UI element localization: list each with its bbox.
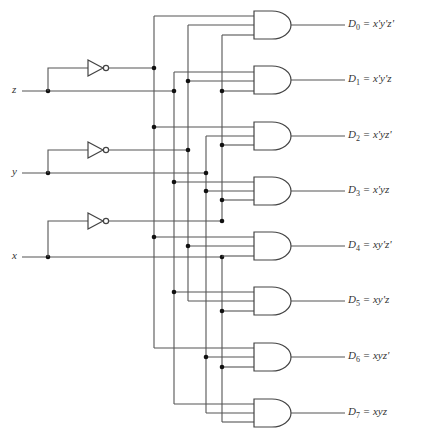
and-gate-4-icon [254,232,291,260]
output-label-d0: D0 = x'y'z' [348,18,394,32]
junction-dot [186,79,191,84]
junction-dot [172,290,177,295]
output-label-d7: D7 = xyz [348,406,387,420]
input-label-y: y [12,166,17,177]
and-gate-6-icon [254,343,291,371]
junction-dot [220,143,225,148]
junction-dot [186,148,191,153]
junction-dot [220,219,225,224]
and-gate-7-icon [254,399,291,427]
junction-dot [172,180,177,185]
inverter-y-icon [88,142,103,158]
junction-dot [220,89,225,94]
junction-dot [220,198,225,203]
junction-dot [204,171,209,176]
and-gate-3-icon [254,177,291,205]
and-gate-2-icon [254,122,291,150]
inverter-feed-z [48,68,88,91]
input-label-x: x [12,250,17,261]
and-gate-1-icon [254,66,291,94]
output-label-d5: D5 = xy'z [348,294,389,308]
junction-dot [152,125,157,130]
inverter-feed-x [48,221,88,257]
junction-dot [204,355,209,360]
junction-dot [186,244,191,249]
and-gate-0-icon [254,11,291,39]
junction-dot [172,89,177,94]
inverter-feed-y [48,150,88,173]
input-label-z: z [12,84,16,95]
junction-dot [152,66,157,71]
inverter-x-icon [88,213,103,229]
inverter-bubble-icon [103,218,108,223]
junction-dot [220,255,225,260]
and-gate-5-icon [254,287,291,315]
junction-dot [204,189,209,194]
inverter-bubble-icon [103,147,108,152]
output-label-d4: D4 = xy'z' [348,239,392,253]
output-label-d1: D1 = x'y'z [348,73,392,87]
circuit-drawing [0,0,423,437]
inverter-z-icon [88,60,103,76]
inverter-bubble-icon [103,65,108,70]
output-label-d2: D2 = x'yz' [348,129,392,143]
junction-dot [152,235,157,240]
decoder-diagram: zyxD0 = x'y'z'D1 = x'y'zD2 = x'yz'D3 = x… [0,0,423,437]
output-label-d6: D6 = xyz' [348,350,389,364]
junction-dot [220,365,225,370]
output-label-d3: D3 = x'yz [348,184,389,198]
junction-dot [220,309,225,314]
